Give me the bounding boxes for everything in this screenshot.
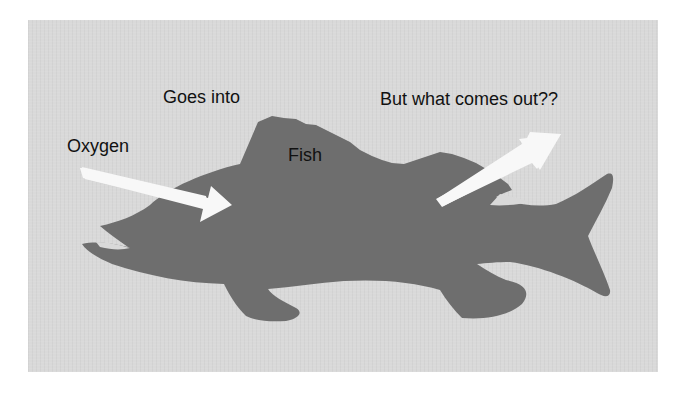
fish-diagram (0, 0, 684, 395)
goes-into-label: Goes into (163, 88, 240, 106)
question-label: But what comes out?? (380, 90, 558, 108)
oxygen-label: Oxygen (67, 137, 129, 155)
fish-label: Fish (288, 146, 322, 164)
